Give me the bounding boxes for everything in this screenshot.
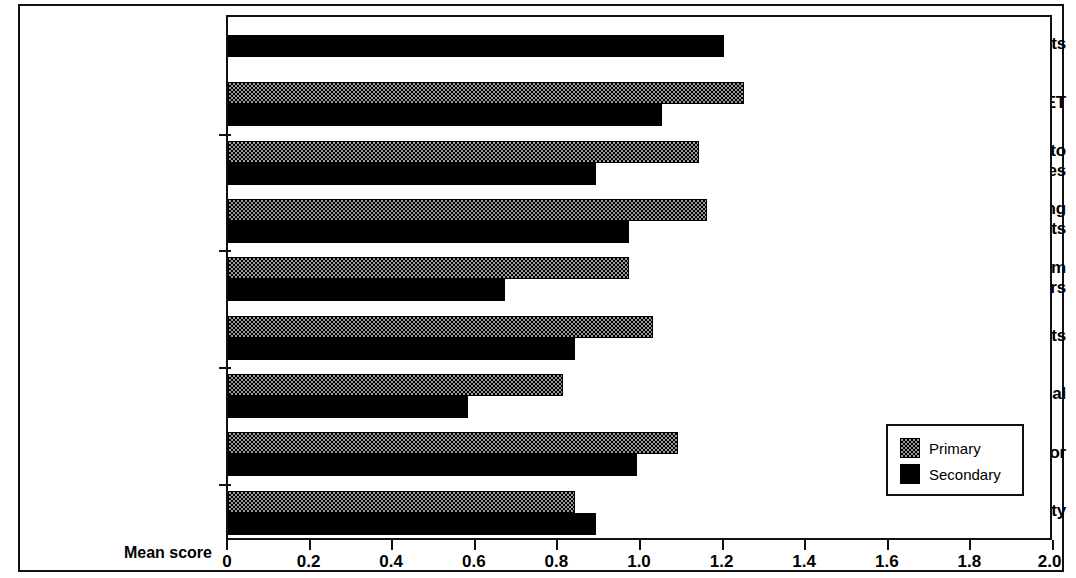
bar-primary — [228, 316, 653, 338]
x-axis-tick-label: 1.4 — [792, 552, 816, 572]
bar-secondary — [228, 338, 575, 360]
bar-secondary — [228, 454, 637, 476]
legend-label-secondary: Secondary — [929, 466, 1001, 483]
bar-secondary — [228, 163, 596, 185]
x-axis: 00.20.40.60.81.01.21.41.61.82.0 — [226, 540, 1052, 541]
x-axis-tick — [226, 540, 228, 550]
x-axis-tick-label: 0.2 — [297, 552, 321, 572]
bar-secondary — [228, 513, 596, 535]
x-axis-tick-label: 1.2 — [710, 552, 734, 572]
legend-label-primary: Primary — [929, 440, 981, 457]
bar-group — [228, 134, 1050, 192]
x-axis-tick — [309, 540, 311, 550]
bar-group — [228, 17, 1050, 75]
x-axis-tick-label: 0.8 — [545, 552, 569, 572]
bar-primary — [228, 82, 744, 104]
x-axis-tick-label: 2.0 — [1038, 552, 1062, 572]
x-axis-tick — [474, 540, 476, 550]
bar-primary — [228, 199, 707, 221]
x-axis-tick — [1052, 540, 1054, 550]
legend-swatch-secondary-icon — [900, 464, 920, 484]
bar-secondary — [228, 35, 724, 57]
legend-item-primary[interactable]: Primary — [900, 435, 1022, 461]
bar-secondary — [228, 396, 468, 418]
bar-group — [228, 367, 1050, 425]
bar-group — [228, 192, 1050, 250]
bar-primary — [228, 374, 563, 396]
bar-group — [228, 75, 1050, 133]
x-axis-tick — [639, 540, 641, 550]
bar-group — [228, 309, 1050, 367]
x-axis-tick-label: 1.0 — [627, 552, 651, 572]
bar-primary — [228, 257, 629, 279]
bar-secondary — [228, 104, 662, 126]
x-axis-tick — [556, 540, 558, 550]
bar-group — [228, 250, 1050, 308]
bar-primary — [228, 491, 575, 513]
x-axis-tick — [722, 540, 724, 550]
legend-swatch-primary-icon — [900, 438, 920, 458]
x-axis-title: Mean score — [100, 544, 212, 562]
x-axis-tick — [969, 540, 971, 550]
x-axis-tick — [804, 540, 806, 550]
bar-secondary — [228, 221, 629, 243]
bar-primary — [228, 141, 699, 163]
x-axis-tick — [887, 540, 889, 550]
chart-figure: Dept. projectsWhole school INSETKey teac… — [0, 0, 1076, 578]
legend-item-secondary[interactable]: Secondary — [900, 461, 1022, 487]
bar-secondary — [228, 279, 505, 301]
x-axis-tick-label: 1.8 — [958, 552, 982, 572]
x-axis-tick-label: 1.6 — [875, 552, 899, 572]
bar-primary — [228, 432, 678, 454]
x-axis-tick-label: 0 — [222, 552, 231, 572]
x-axis-tick-label: 0.4 — [379, 552, 403, 572]
x-axis-tick — [391, 540, 393, 550]
x-axis-tick-label: 0.6 — [462, 552, 486, 572]
legend: Primary Secondary — [886, 424, 1024, 496]
